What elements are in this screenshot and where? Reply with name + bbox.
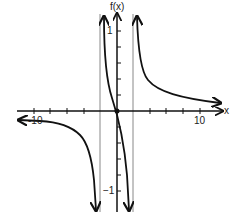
- curve-left-branch: [40, 121, 96, 210]
- x-tick-label-neg10: -10: [28, 116, 42, 126]
- function-graph: [0, 0, 237, 222]
- x-tick-label-10: 10: [194, 116, 205, 126]
- x-axis-label: x: [224, 106, 229, 116]
- y-axis-label: f(x): [110, 2, 124, 12]
- curve-right-branch: [137, 17, 220, 103]
- y-tick-label-1: 1: [107, 26, 113, 36]
- origin-point: [115, 109, 120, 114]
- y-tick-label-neg1: −1: [103, 186, 114, 196]
